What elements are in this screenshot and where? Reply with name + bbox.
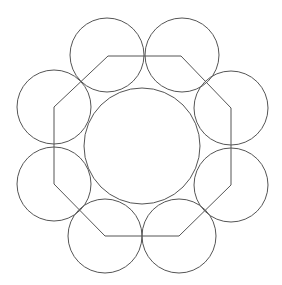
diagram-canvas: [0, 0, 282, 285]
octagon-circles-diagram: [0, 0, 282, 285]
outer-circle-2: [145, 18, 219, 92]
central-circle: [84, 88, 200, 204]
outer-circle-1: [70, 18, 144, 92]
